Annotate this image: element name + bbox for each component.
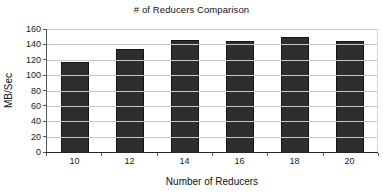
bar-chart: # of Reducers Comparison MB/Sec 02040608… [0, 0, 383, 196]
bar-20 [336, 41, 364, 152]
y-tick-label-80: 80 [0, 86, 44, 96]
y-tick-label-140: 140 [0, 39, 44, 49]
x-axis-title: Number of Reducers [47, 176, 377, 187]
gridline-140 [47, 44, 377, 45]
x-tick-label-10: 10 [47, 156, 102, 166]
y-tick-label-40: 40 [0, 116, 44, 126]
gridline-40 [47, 121, 377, 122]
x-tick-mark-6 [378, 153, 379, 156]
y-axis-line [46, 29, 47, 153]
gridline-120 [47, 60, 377, 61]
y-axis-tick-labels: 020406080100120140160 [0, 29, 44, 152]
chart-title: # of Reducers Comparison [0, 4, 383, 15]
y-tick-label-120: 120 [0, 55, 44, 65]
x-tick-label-16: 16 [212, 156, 267, 166]
gridline-160 [47, 29, 377, 30]
gridline-60 [47, 106, 377, 107]
x-axis-tick-labels: 101214161820 [47, 156, 377, 166]
y-tick-label-160: 160 [0, 24, 44, 34]
gridline-80 [47, 91, 377, 92]
y-tick-label-20: 20 [0, 132, 44, 142]
plot-area [47, 29, 378, 152]
x-tick-label-20: 20 [322, 156, 377, 166]
bar-14 [171, 40, 199, 152]
bar-16 [226, 41, 254, 152]
x-tick-label-12: 12 [102, 156, 157, 166]
gridline-20 [47, 137, 377, 138]
y-tick-label-60: 60 [0, 101, 44, 111]
x-tick-label-14: 14 [157, 156, 212, 166]
y-tick-label-100: 100 [0, 70, 44, 80]
gridline-100 [47, 75, 377, 76]
x-tick-label-18: 18 [267, 156, 322, 166]
y-tick-label-0: 0 [0, 147, 44, 157]
bar-18 [281, 37, 309, 152]
